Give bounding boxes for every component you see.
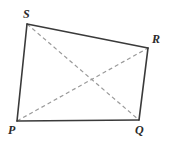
side-RQ <box>139 48 148 120</box>
side-PS <box>17 24 27 121</box>
vertex-label-q: Q <box>135 124 144 136</box>
side-QP <box>17 120 139 121</box>
vertex-label-r: R <box>152 33 160 45</box>
vertex-label-p: P <box>8 124 15 136</box>
side-SR <box>27 24 148 48</box>
diagonal-PR <box>17 48 148 121</box>
geometry-figure: S R Q P <box>0 0 169 147</box>
vertex-label-s: S <box>23 8 30 20</box>
